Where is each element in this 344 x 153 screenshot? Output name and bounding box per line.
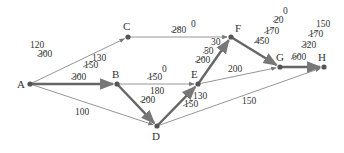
flow-network-diagram: 1203001301503001002800015018020013015015… <box>0 0 344 153</box>
edge-label-E-G: 200 <box>228 64 243 74</box>
node-label-D: D <box>152 130 160 142</box>
edge-label-B-E: 0 <box>162 64 167 74</box>
edge-label-F-G: 0 <box>283 6 288 16</box>
node-F <box>228 34 233 39</box>
edge-F-G <box>231 37 277 65</box>
node-A <box>27 81 32 86</box>
node-C <box>125 34 130 39</box>
node-D <box>154 123 159 128</box>
node-B <box>114 81 119 86</box>
nodes-layer: ABCDEFGH <box>17 20 327 142</box>
node-G <box>277 64 282 69</box>
node-label-F: F <box>235 22 241 34</box>
edge-label-A-D: 100 <box>75 107 90 117</box>
node-label-C: C <box>123 20 130 32</box>
edge-label-C-F: 0 <box>191 19 196 29</box>
edge-labels-layer: 1203001301503001002800015018020013015015… <box>30 6 331 117</box>
node-H <box>321 64 326 69</box>
edge-D-H <box>157 68 320 126</box>
node-label-H: H <box>318 51 326 63</box>
node-label-B: B <box>112 68 119 80</box>
edge-label-D-H: 150 <box>242 96 257 106</box>
edge-label-G-H: 150 <box>316 19 331 29</box>
node-label-G: G <box>276 51 284 63</box>
node-label-E: E <box>191 68 198 80</box>
node-label-A: A <box>17 78 25 90</box>
node-E <box>195 81 200 86</box>
edge-A-D <box>30 84 153 125</box>
